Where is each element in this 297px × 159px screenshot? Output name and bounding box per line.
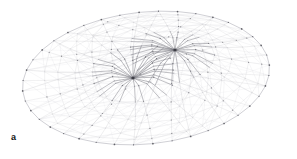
panel-label: a (11, 131, 16, 143)
mesh-nodes (22, 11, 270, 146)
gridshell-wireframe-diagram (0, 0, 297, 159)
mesh-rim-outline (23, 11, 270, 145)
mesh-spoke-edges (23, 11, 270, 145)
figure-panel: a (0, 0, 297, 159)
mesh-back-edges (23, 11, 270, 145)
